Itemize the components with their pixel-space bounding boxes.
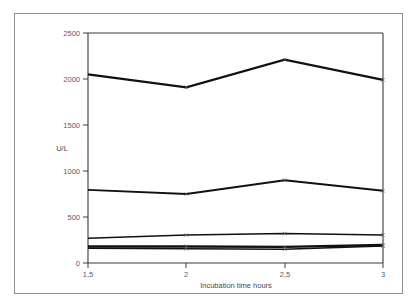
y-tick-label: 2500 <box>63 29 80 38</box>
x-tick-label: 1,5 <box>83 270 93 279</box>
data-marker-group <box>185 58 385 251</box>
x-axis-title: Incubation time hours <box>200 281 272 290</box>
y-tick-label: 1000 <box>63 167 80 176</box>
data-series-group <box>88 60 383 250</box>
y-tick-label: 1500 <box>63 121 80 130</box>
series-line-3 <box>88 234 383 239</box>
y-tick-label: 2000 <box>63 75 80 84</box>
y-axis-title: U/L <box>56 144 68 153</box>
series-line-1 <box>88 60 383 88</box>
x-tick-label: 2 <box>184 270 188 279</box>
x-tick-label: 2,5 <box>280 270 290 279</box>
series-line-4 <box>88 245 383 247</box>
x-axis-tick-labels: 1,5 2 2,5 3 <box>83 270 385 279</box>
x-tick-marks <box>88 263 383 268</box>
line-chart-plot: 2500 2000 1500 1000 500 0 U/L <box>0 0 417 307</box>
y-tick-label: 500 <box>67 213 80 222</box>
series-line-2 <box>88 180 383 194</box>
y-tick-marks <box>83 33 88 263</box>
chart-figure: 2500 2000 1500 1000 500 0 U/L <box>0 0 417 307</box>
plot-axes <box>88 33 383 263</box>
y-tick-label: 0 <box>76 259 80 268</box>
x-tick-label: 3 <box>381 270 385 279</box>
